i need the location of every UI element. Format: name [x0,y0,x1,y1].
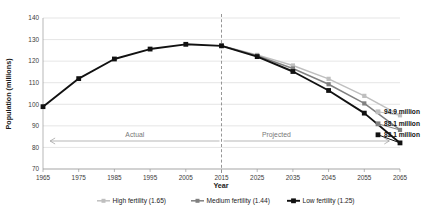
series-marker [326,88,331,93]
x-tick-labels: 1965197519851995200520152025203520452055… [36,174,408,181]
series-marker [398,141,403,146]
legend-label: Low fertility (1.25) [303,197,355,205]
end-label-marker [376,121,381,126]
y-tick-label: 90 [32,122,40,129]
actual-label: Actual [125,131,144,138]
end-label-text: 82.1 million [384,131,420,138]
end-label-text: 94.9 million [384,108,420,115]
legend-label: High fertility (1.65) [113,197,167,205]
series-marker [291,69,296,74]
end-label-marker [376,132,381,137]
series-marker [41,104,46,109]
legend-marker [291,198,296,203]
population-projection-chart: 708090100110120130140 196519751985199520… [0,0,435,219]
x-tick-label: 1965 [36,174,51,181]
series-marker [327,77,331,81]
y-tick-label: 120 [28,57,39,64]
series-end-labels: 94.9 million88.1 million82.1 million [376,108,420,143]
x-tick-label: 2065 [393,174,408,181]
chart-legend: High fertility (1.65)Medium fertility (1… [97,197,355,205]
legend-marker [196,199,200,203]
end-label-marker [376,109,381,114]
series-marker [362,111,367,116]
series-marker [112,57,117,62]
series-marker [362,94,366,98]
y-axis-title: Population (millions) [4,58,13,130]
x-tick-label: 2055 [357,174,372,181]
y-tick-label: 80 [32,144,40,151]
series-marker [255,54,260,59]
x-axis-title: Year [213,181,228,190]
x-tick-label: 2005 [179,174,194,181]
legend-marker [102,199,106,203]
period-annotations: ActualProjected [50,131,389,144]
x-tick-label: 1975 [72,174,87,181]
y-tick-label: 100 [28,101,39,108]
y-tick-label: 140 [28,14,39,21]
series-marker [76,76,81,81]
y-tick-label: 130 [28,36,39,43]
x-tick-label: 2035 [286,174,301,181]
x-tick-label: 1985 [107,174,122,181]
y-tick-label: 110 [29,79,40,86]
projected-label: Projected [262,131,291,139]
y-tick-labels: 708090100110120130140 [28,14,39,172]
series-marker [148,47,153,52]
x-tick-label: 2045 [321,174,336,181]
series-marker [327,82,331,86]
y-tick-label: 70 [32,165,40,172]
x-tick-label: 1995 [143,174,158,181]
legend-label: Medium fertility (1.44) [207,197,270,205]
series-line [222,46,401,130]
end-label-text: 88.1 million [384,120,420,127]
series-marker [362,101,366,105]
x-tick-label: 2025 [250,174,265,181]
series-marker [183,42,188,47]
x-tick-label: 2015 [214,174,229,181]
series-marker [219,43,224,48]
chart-canvas: 708090100110120130140 196519751985199520… [0,0,435,219]
